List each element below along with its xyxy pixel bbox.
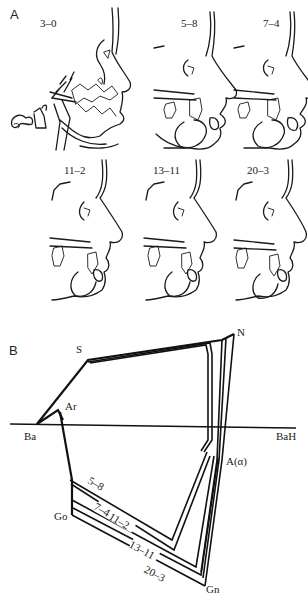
panel-b-superimposition xyxy=(0,0,308,600)
landmark-bah: BaH xyxy=(276,430,296,442)
landmark-ar: Ar xyxy=(65,400,77,412)
landmark-a-alpha: A(α) xyxy=(226,455,247,467)
bah-reference-line xyxy=(10,424,296,428)
landmark-s: S xyxy=(76,343,82,355)
ba-ar-line xyxy=(37,410,63,424)
landmark-gn: Gn xyxy=(206,583,219,595)
landmark-ba: Ba xyxy=(24,430,36,442)
landmark-go: Go xyxy=(54,510,67,522)
ramus-line xyxy=(60,412,72,515)
landmark-n: N xyxy=(237,326,245,338)
mandible-7-4 xyxy=(71,456,210,550)
